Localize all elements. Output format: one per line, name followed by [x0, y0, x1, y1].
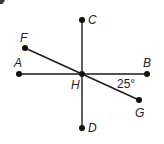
label-b: B [143, 56, 151, 70]
label-g: G [135, 106, 144, 120]
label-c: C [88, 13, 97, 27]
label-h: H [71, 78, 80, 92]
angle-label-bhg: 25° [117, 77, 135, 91]
point-g [136, 97, 142, 103]
label-d: D [88, 121, 97, 135]
point-f [22, 45, 28, 51]
point-a [16, 71, 22, 77]
point-h [79, 71, 85, 77]
label-f: F [20, 31, 28, 45]
label-a: A [13, 56, 22, 70]
geometry-diagram: C F A B H G D 25° [0, 0, 164, 144]
point-c [79, 17, 85, 23]
point-d [79, 125, 85, 131]
point-b [144, 71, 150, 77]
